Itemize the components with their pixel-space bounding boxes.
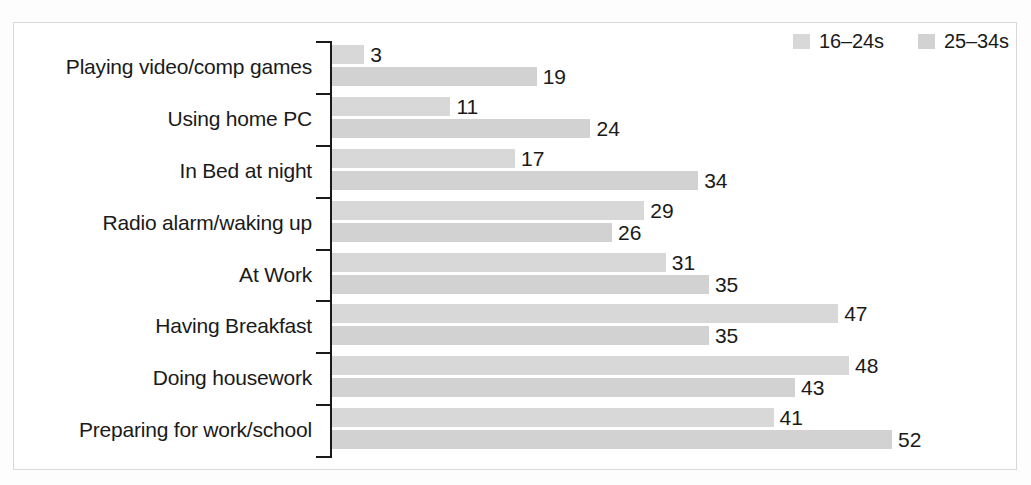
- category-label: Doing housework: [153, 366, 312, 390]
- bar: [332, 171, 698, 190]
- bar-value-label: 11: [456, 96, 478, 117]
- axis-tick: [316, 41, 332, 43]
- bar-value-label: 26: [618, 222, 641, 243]
- bar-value-label: 24: [596, 118, 619, 139]
- chart-category-row: At Work3135: [0, 249, 1031, 301]
- bar-line: 29: [332, 201, 1022, 220]
- bar-value-label: 41: [780, 407, 803, 428]
- bar-value-label: 31: [672, 252, 695, 273]
- bar-value-label: 19: [543, 66, 566, 87]
- bar-value-label: 3: [370, 44, 382, 65]
- bar-line: 41: [332, 408, 1022, 427]
- bar-chart: Playing video/comp games319Using home PC…: [0, 0, 1031, 485]
- bar-group: 1124: [332, 97, 1022, 141]
- category-label: Having Breakfast: [155, 314, 312, 338]
- chart-category-row: Using home PC1124: [0, 93, 1031, 145]
- bar-line: 35: [332, 326, 1022, 345]
- axis-tick: [316, 93, 332, 95]
- legend-item: 25–34s: [918, 30, 1009, 53]
- bar: [332, 408, 774, 427]
- bar-group: 1734: [332, 149, 1022, 193]
- bar-line: 35: [332, 275, 1022, 294]
- bar-line: 52: [332, 430, 1022, 449]
- axis-tick: [316, 145, 332, 147]
- category-label: Playing video/comp games: [66, 55, 312, 79]
- chart-rows: Playing video/comp games319Using home PC…: [0, 41, 1031, 456]
- bar-value-label: 47: [844, 303, 867, 324]
- bar-group: 4735: [332, 304, 1022, 348]
- bar-group: 4152: [332, 408, 1022, 452]
- bar: [332, 223, 612, 242]
- bar: [332, 378, 795, 397]
- chart-legend: 16–24s25–34s: [793, 30, 1009, 53]
- bar-line: 43: [332, 378, 1022, 397]
- category-label: Radio alarm/waking up: [103, 211, 312, 235]
- bar-line: 48: [332, 356, 1022, 375]
- bar-line: 11: [332, 97, 1022, 116]
- axis-tick: [316, 352, 332, 354]
- category-label: In Bed at night: [180, 159, 312, 183]
- legend-swatch-16-24s: [793, 34, 810, 49]
- category-label: At Work: [239, 263, 312, 287]
- axis-tick: [316, 197, 332, 199]
- bar-line: 31: [332, 253, 1022, 272]
- bar: [332, 45, 364, 64]
- legend-label: 16–24s: [819, 30, 884, 53]
- bar-value-label: 48: [855, 355, 878, 376]
- legend-item: 16–24s: [793, 30, 884, 53]
- bar-group: 4843: [332, 356, 1022, 400]
- bar-line: 19: [332, 67, 1022, 86]
- bar: [332, 253, 666, 272]
- bar: [332, 149, 515, 168]
- bar: [332, 275, 709, 294]
- bar-line: 24: [332, 119, 1022, 138]
- category-label: Preparing for work/school: [79, 418, 312, 442]
- category-label: Using home PC: [168, 107, 312, 131]
- bar-line: 17: [332, 149, 1022, 168]
- axis-tick: [316, 249, 332, 251]
- bar-value-label: 35: [715, 325, 738, 346]
- bar: [332, 119, 590, 138]
- bar-value-label: 43: [801, 377, 824, 398]
- bar: [332, 356, 849, 375]
- chart-category-row: Doing housework4843: [0, 352, 1031, 404]
- axis-tick: [316, 456, 332, 458]
- bar-value-label: 34: [704, 170, 727, 191]
- bar-value-label: 35: [715, 274, 738, 295]
- bar: [332, 430, 892, 449]
- bar: [332, 67, 537, 86]
- bar-group: 2926: [332, 201, 1022, 245]
- chart-category-row: Having Breakfast4735: [0, 300, 1031, 352]
- bar-line: 34: [332, 171, 1022, 190]
- legend-label: 25–34s: [944, 30, 1009, 53]
- bar: [332, 97, 450, 116]
- bar-group: 3135: [332, 253, 1022, 297]
- bar: [332, 326, 709, 345]
- chart-category-row: Preparing for work/school4152: [0, 404, 1031, 456]
- bar-line: 47: [332, 304, 1022, 323]
- axis-tick: [316, 404, 332, 406]
- legend-swatch-25-34s: [918, 34, 935, 49]
- chart-category-row: Radio alarm/waking up2926: [0, 197, 1031, 249]
- scanned-page: Playing video/comp games319Using home PC…: [0, 0, 1031, 485]
- chart-category-row: In Bed at night1734: [0, 145, 1031, 197]
- bar-value-label: 17: [521, 148, 544, 169]
- bar: [332, 304, 838, 323]
- bar-value-label: 52: [898, 429, 921, 450]
- axis-tick: [316, 300, 332, 302]
- bar-line: 26: [332, 223, 1022, 242]
- bar: [332, 201, 644, 220]
- bar-value-label: 29: [650, 200, 673, 221]
